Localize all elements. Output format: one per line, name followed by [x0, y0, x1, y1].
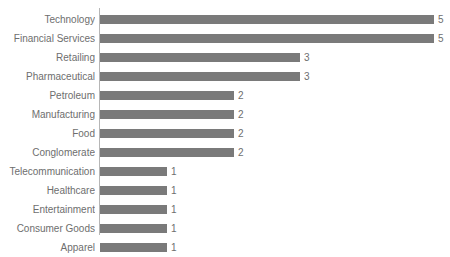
category-label: Food	[0, 124, 95, 143]
bar-row: Petroleum2	[0, 86, 450, 105]
bar-value-label: 1	[171, 200, 177, 219]
bar-value-label: 2	[238, 105, 244, 124]
category-label: Entertainment	[0, 200, 95, 219]
bar	[100, 129, 234, 138]
bar-row: Manufacturing2	[0, 105, 450, 124]
bar-value-label: 2	[238, 143, 244, 162]
category-label: Healthcare	[0, 181, 95, 200]
bar-value-label: 1	[171, 219, 177, 238]
bar-value-label: 5	[438, 10, 444, 29]
bar	[100, 205, 167, 214]
bar-row: Consumer Goods1	[0, 219, 450, 238]
bar-row: Conglomerate2	[0, 143, 450, 162]
bar	[100, 243, 167, 252]
bar	[100, 34, 434, 43]
bar-row: Financial Services5	[0, 29, 450, 48]
bar	[100, 148, 234, 157]
bar-value-label: 3	[304, 67, 310, 86]
bar	[100, 224, 167, 233]
category-label: Telecommunication	[0, 162, 95, 181]
category-label: Conglomerate	[0, 143, 95, 162]
bar-value-label: 1	[171, 162, 177, 181]
category-label: Financial Services	[0, 29, 95, 48]
category-label: Retailing	[0, 48, 95, 67]
bar	[100, 167, 167, 176]
bar-row: Retailing3	[0, 48, 450, 67]
bar-row: Technology5	[0, 10, 450, 29]
bar	[100, 53, 300, 62]
category-label: Consumer Goods	[0, 219, 95, 238]
bar	[100, 186, 167, 195]
bar-row: Telecommunication1	[0, 162, 450, 181]
bar	[100, 91, 234, 100]
bar-row: Pharmaceutical3	[0, 67, 450, 86]
chart-title-cutoff	[0, 0, 450, 7]
category-label: Petroleum	[0, 86, 95, 105]
bar-row: Entertainment1	[0, 200, 450, 219]
category-label: Technology	[0, 10, 95, 29]
bar-row: Apparel1	[0, 238, 450, 257]
bar-value-label: 5	[438, 29, 444, 48]
category-label: Pharmaceutical	[0, 67, 95, 86]
bar-row: Healthcare1	[0, 181, 450, 200]
plot-area: Technology5Financial Services5Retailing3…	[0, 8, 450, 242]
bar-value-label: 3	[304, 48, 310, 67]
bar	[100, 110, 234, 119]
bar-value-label: 2	[238, 86, 244, 105]
category-label: Manufacturing	[0, 105, 95, 124]
bar-value-label: 1	[171, 238, 177, 257]
bar-row: Food2	[0, 124, 450, 143]
bar-value-label: 2	[238, 124, 244, 143]
bar-value-label: 1	[171, 181, 177, 200]
bar	[100, 72, 300, 81]
bar	[100, 15, 434, 24]
category-label: Apparel	[0, 238, 95, 257]
